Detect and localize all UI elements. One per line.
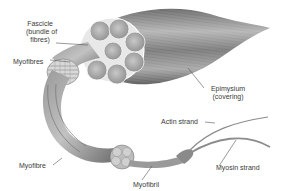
muscle-diagram: Fascicle (bundle of fibres) Myofibres Ep… xyxy=(0,0,288,191)
myofibre-curve xyxy=(43,70,116,163)
label-myosin-strand: Myosin strand xyxy=(216,164,260,172)
label-myofibril: Myofibril xyxy=(133,181,159,189)
label-myofibre: Myofibre xyxy=(19,162,46,170)
myosin-leader xyxy=(219,140,236,166)
label-fascicle-line1: Fascicle xyxy=(26,20,54,28)
label-epimysium-line1: Epimysium xyxy=(208,85,248,93)
label-fascicle-line3: fibres) xyxy=(26,36,54,44)
label-myofibres: Myofibres xyxy=(13,58,43,66)
filaments xyxy=(190,117,270,153)
myofibril-leader xyxy=(142,166,152,180)
actin-leader xyxy=(205,122,215,123)
myofibre-leader xyxy=(53,158,62,165)
label-fascicle: Fascicle (bundle of fibres) xyxy=(26,20,54,44)
label-actin-strand: Actin strand xyxy=(161,118,198,126)
label-fascicle-line2: (bundle of xyxy=(26,28,54,36)
label-epimysium: Epimysium (covering) xyxy=(208,85,248,101)
label-epimysium-line2: (covering) xyxy=(208,93,248,101)
myofibril xyxy=(128,149,193,168)
